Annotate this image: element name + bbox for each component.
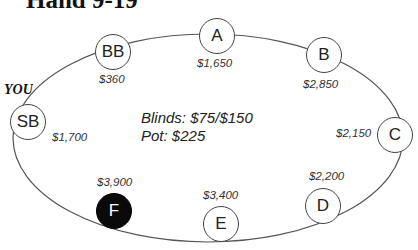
stack-sb: $1,700: [52, 131, 87, 143]
stack-d: $2,200: [309, 170, 344, 182]
stack-bb: $360: [99, 73, 125, 85]
stack-f: $3,900: [97, 176, 132, 188]
seat-b: B: [306, 37, 342, 73]
stack-c: $2,150: [336, 127, 371, 139]
seat-f-dealer: F: [96, 193, 132, 229]
stack-a: $1,650: [197, 57, 232, 69]
you-marker: YOU: [4, 82, 33, 98]
seat-sb: SB: [10, 104, 46, 140]
stack-e: $3,400: [203, 189, 238, 201]
seat-d: D: [305, 188, 341, 224]
seat-bb: BB: [95, 34, 131, 70]
seat-e: E: [203, 206, 239, 242]
table-info: Blinds: $75/$150 Pot: $225: [141, 109, 253, 145]
pot-text: Pot: $225: [141, 127, 253, 145]
seat-c: C: [377, 117, 413, 153]
stack-b: $2,850: [303, 78, 338, 90]
blinds-text: Blinds: $75/$150: [141, 109, 253, 127]
seat-a: A: [199, 18, 235, 54]
